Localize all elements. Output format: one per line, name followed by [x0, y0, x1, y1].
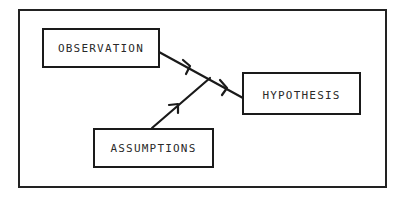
observation-label: OBSERVATION [58, 42, 144, 55]
hypothesis-box: HYPOTHESIS [242, 72, 361, 115]
assumptions-box: ASSUMPTIONS [93, 128, 214, 168]
assumptions-label: ASSUMPTIONS [110, 142, 196, 155]
assumptions-to-junction-line [152, 78, 210, 128]
hypothesis-label: HYPOTHESIS [262, 89, 340, 102]
observation-box: OBSERVATION [42, 28, 160, 68]
observation-to-hypothesis-line [159, 52, 243, 98]
